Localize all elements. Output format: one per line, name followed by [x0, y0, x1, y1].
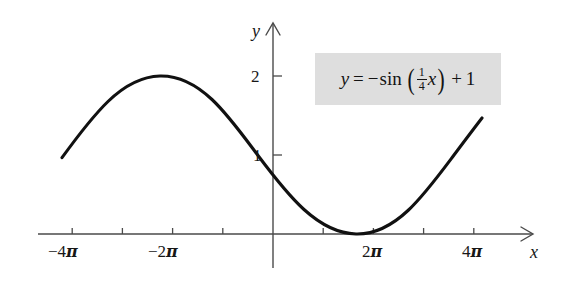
- equation-inner-variable: x: [428, 68, 436, 90]
- fraction-numerator: 1: [417, 66, 427, 78]
- equation-expression: y = − sin ( 1 4 x ) + 1: [341, 66, 476, 91]
- function-graph-figure: −4π −2π 2π 4π 1 2 y x y = − sin ( 1 4 x …: [0, 0, 564, 293]
- x-tick-label-2pi: 2π: [362, 243, 382, 260]
- y-axis-label: y: [252, 22, 260, 40]
- y-axis-ticks: [273, 76, 282, 155]
- equation-function-name: sin: [380, 68, 402, 90]
- x-tick-label-minus-4pi: −4π: [48, 243, 78, 260]
- y-tick-label-2: 2: [251, 68, 260, 85]
- equation-open-paren: (: [407, 68, 414, 90]
- x-axis-label: x: [530, 243, 538, 261]
- x-tick-label-4pi: 4π: [462, 243, 482, 260]
- x-tick-label-minus-2pi: −2π: [148, 243, 178, 260]
- equation-constant: 1: [466, 68, 476, 90]
- equation-fraction: 1 4: [417, 66, 427, 91]
- equation-equals: =: [353, 68, 364, 90]
- equation-callout-box: y = − sin ( 1 4 x ) + 1: [315, 53, 501, 105]
- equation-minus: −: [368, 68, 379, 90]
- equation-lhs: y: [341, 68, 349, 90]
- equation-plus: +: [451, 68, 462, 90]
- y-tick-label-1: 1: [253, 147, 262, 164]
- equation-close-paren: ): [438, 68, 445, 90]
- fraction-denominator: 4: [417, 79, 427, 92]
